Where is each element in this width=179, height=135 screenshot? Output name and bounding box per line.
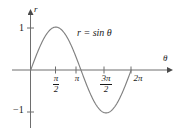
equation-annotation: r = sin θ <box>77 28 112 38</box>
y-tick-label-one: 1 <box>19 23 24 33</box>
x-tick-label-pi-half-denominator: 2 <box>53 85 60 94</box>
x-tick-label-3pi-half-denominator: 2 <box>100 85 111 94</box>
plot-canvas <box>0 0 179 135</box>
x-axis-label: θ <box>163 54 167 63</box>
x-tick-label-pi-half: π 2 <box>47 74 65 95</box>
y-tick-label-neg-one: −1 <box>13 105 24 115</box>
x-tick-label-2pi: 2π <box>128 74 148 83</box>
x-tick-label-pi-half-numerator: π <box>53 74 60 83</box>
polar-sine-figure: r θ 1 −1 π 2 π 3π 2 2π r = sin θ <box>0 0 179 135</box>
x-tick-label-pi: π <box>70 74 84 83</box>
x-tick-label-3pi-half: 3π 2 <box>95 74 117 95</box>
x-tick-label-3pi-half-numerator: 3π <box>100 74 111 83</box>
y-axis-label: r <box>34 5 38 14</box>
